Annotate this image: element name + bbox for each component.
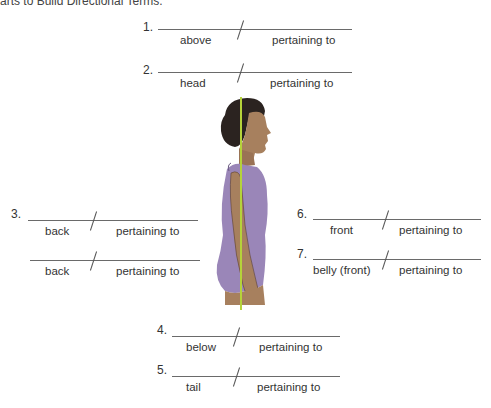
prefix-label: back (45, 265, 69, 277)
suffix-label: pertaining to (399, 224, 462, 236)
suffix-label: pertaining to (272, 34, 335, 46)
answer-line[interactable] (30, 260, 200, 261)
divider-slash (233, 327, 240, 346)
prefix-label: above (180, 34, 211, 46)
woman-profile-illustration (205, 95, 285, 310)
item-number: 3. (11, 207, 21, 221)
suffix-label: pertaining to (257, 381, 320, 393)
divider-slash (90, 211, 97, 230)
answer-line[interactable] (28, 220, 198, 221)
prefix-label: belly (front) (313, 264, 371, 276)
prefix-label: back (45, 225, 69, 237)
item-number: 5. (157, 363, 167, 377)
prefix-label: tail (186, 381, 201, 393)
answer-line[interactable] (172, 336, 340, 337)
suffix-label: pertaining to (399, 264, 462, 276)
divider-slash (382, 250, 389, 269)
answer-line[interactable] (158, 29, 352, 30)
prefix-label: front (330, 224, 353, 236)
item-number: 4. (157, 323, 167, 337)
item-number: 6. (297, 207, 307, 221)
divider-slash (237, 63, 244, 82)
item-number: 1. (143, 20, 153, 34)
page-header: arts to Build Directional Terms. (0, 0, 163, 8)
answer-line[interactable] (313, 259, 481, 260)
suffix-label: pertaining to (116, 265, 179, 277)
divider-slash (90, 251, 97, 270)
answer-line[interactable] (313, 219, 481, 220)
divider-slash (237, 20, 244, 39)
suffix-label: pertaining to (116, 225, 179, 237)
item-number: 2. (143, 63, 153, 77)
divider-slash (382, 210, 389, 229)
divider-slash (233, 367, 240, 386)
answer-line[interactable] (172, 376, 340, 377)
answer-line[interactable] (158, 72, 352, 73)
anatomical-figure (205, 95, 285, 310)
prefix-label: head (180, 77, 206, 89)
prefix-label: below (186, 341, 216, 353)
suffix-label: pertaining to (259, 341, 322, 353)
item-number: 7. (297, 247, 307, 261)
suffix-label: pertaining to (270, 77, 333, 89)
